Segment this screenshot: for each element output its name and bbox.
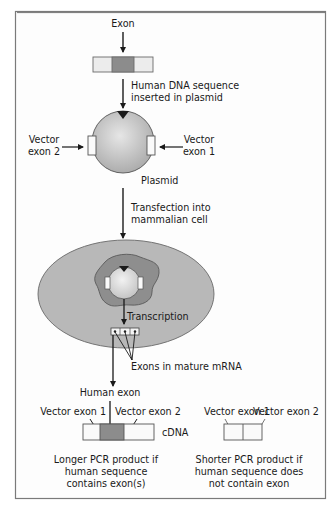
longer-product-caption-2: human sequence: [65, 466, 148, 477]
plasmid-label: Plasmid: [141, 175, 178, 186]
human-exon-label: Human exon: [80, 387, 141, 398]
exon-label: Exon: [111, 18, 134, 29]
cdna-without-exon: [224, 424, 262, 440]
longer-product-caption-1: Longer PCR product if: [54, 454, 159, 465]
shorter-product-caption-3: not contain exon: [209, 478, 290, 489]
exons-in-mrna-label: Exons in mature mRNA: [131, 361, 242, 372]
vector-exon2-label: Vector: [29, 134, 60, 145]
insertion-label-line2: inserted in plasmid: [131, 92, 223, 103]
cdna-label: cDNA: [162, 427, 189, 438]
transfection-label-line1: Transfection into: [130, 202, 211, 213]
transfection-label-line2: mammalian cell: [131, 214, 208, 225]
vector-exon1-block: [147, 136, 155, 155]
insertion-label-line1: Human DNA sequence: [131, 80, 239, 91]
longer-product-caption-3: contains exon(s): [66, 478, 145, 489]
human-dna-segment: [93, 57, 153, 72]
cdna-with-exon: [83, 424, 154, 440]
shorter-product-caption-1: Shorter PCR product if: [196, 454, 303, 465]
left-vector-exon1-label: Vector exon 1: [40, 406, 106, 417]
vector-exon1-label-2: exon 1: [183, 146, 215, 157]
vector-exon1-label: Vector: [184, 134, 215, 145]
vector-exon2-label-2: exon 2: [28, 146, 60, 157]
right-vector-exon2-label: Vector exon 2: [253, 406, 319, 417]
left-vector-exon2-label: Vector exon 2: [115, 406, 181, 417]
shorter-product-caption-2: human sequence does: [195, 466, 304, 477]
human-exon-block: [112, 57, 134, 72]
transcription-label: Transcription: [126, 311, 189, 322]
vector-exon2-block: [88, 136, 96, 155]
exon-trapping-diagram: Exon Human DNA sequence inserted in plas…: [0, 0, 334, 507]
